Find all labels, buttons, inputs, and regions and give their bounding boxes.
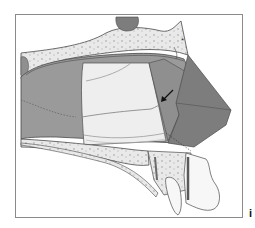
hard-palate	[21, 139, 191, 197]
panel-label: i	[249, 208, 252, 219]
asterisk-marker: *	[181, 36, 184, 45]
illustration-frame: *	[15, 14, 243, 218]
nasal-cavity-graft-illustration: *	[16, 15, 243, 218]
upper-lip	[184, 153, 220, 210]
